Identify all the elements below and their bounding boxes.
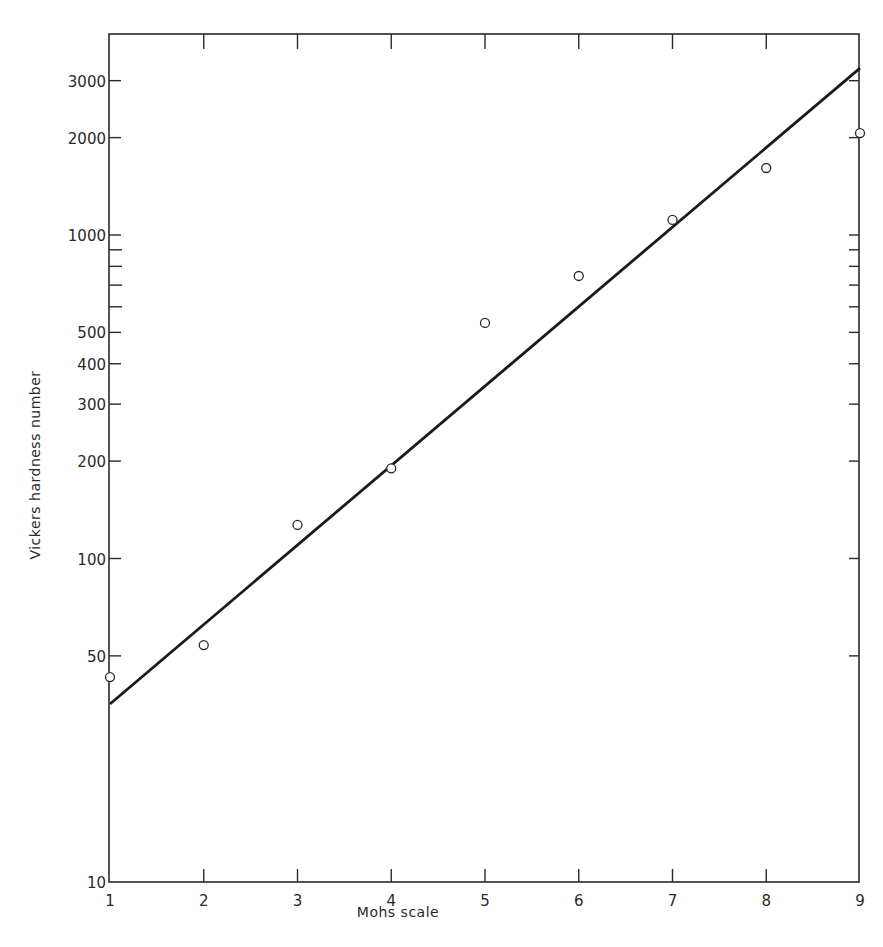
data-point [574,271,583,280]
x-tick-label: 3 [293,892,303,910]
y-tick-label: 3000 [68,73,106,91]
y-tick-label: 1000 [68,227,106,245]
y-tick-label: 2000 [68,130,106,148]
plot-frame [109,34,859,882]
y-axis-label: Vickers hardness number [27,370,43,559]
x-tick-label: 8 [761,892,771,910]
y-tick-label: 50 [87,648,106,666]
data-points [106,129,865,682]
y-tick-label: 100 [77,551,106,569]
data-point [856,129,865,138]
data-point [762,164,771,173]
y-axis-ticks: 1050100200300400500100020003000 [68,73,859,892]
data-point [293,520,302,529]
x-tick-label: 6 [574,892,584,910]
y-tick-label: 300 [77,396,106,414]
x-tick-label: 7 [668,892,678,910]
data-point [668,215,677,224]
y-tick-label: 200 [77,453,106,471]
fit-line [110,68,860,704]
data-point [481,318,490,327]
chart: 1050100200300400500100020003000 12345678… [0,0,883,947]
x-axis-label: Mohs scale [357,904,439,920]
x-axis-ticks: 123456789 [105,34,865,910]
fitted-line [110,68,860,704]
x-tick-label: 2 [199,892,209,910]
data-point [106,673,115,682]
data-point [387,464,396,473]
x-tick-label: 9 [855,892,865,910]
x-tick-label: 1 [105,892,115,910]
plot-border [109,34,859,882]
data-point [199,641,208,650]
y-tick-label: 400 [77,356,106,374]
y-tick-label: 10 [87,874,106,892]
y-tick-label: 500 [77,324,106,342]
x-tick-label: 5 [480,892,490,910]
